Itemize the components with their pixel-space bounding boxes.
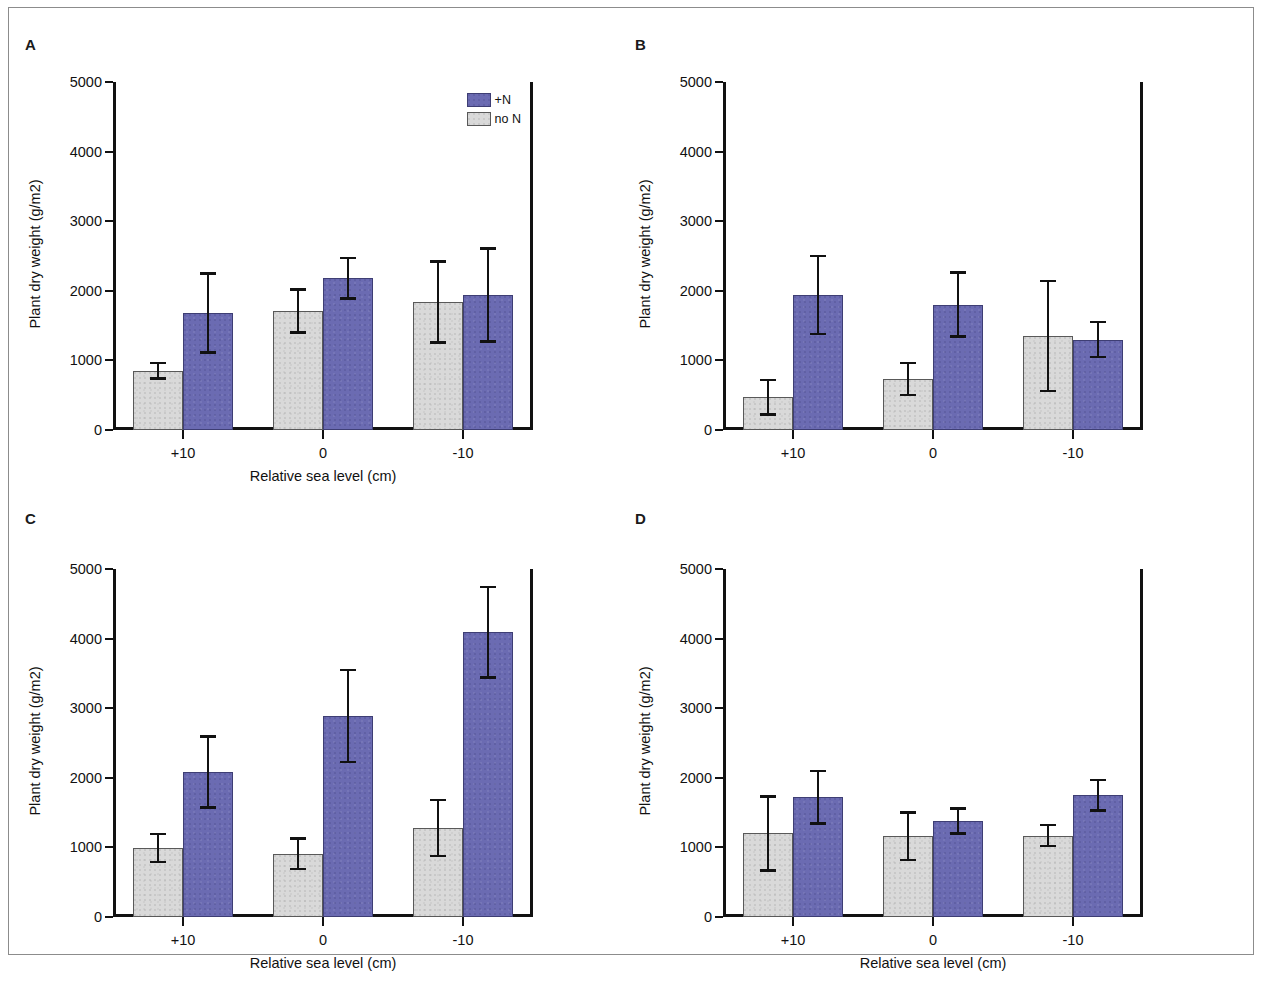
panel-c-errorbar-cap-lower [200, 806, 216, 809]
panel-d-bar-plus-n-2 [1073, 795, 1123, 917]
panel-b-ytick [715, 151, 723, 153]
panel-b-axes: 010002000300040005000+100-10 [723, 82, 1143, 430]
panel-b-errorbar-cap-lower [950, 335, 966, 338]
panel-b-errorbar-cap-lower [760, 413, 776, 416]
panel-b-errorbar-cap-lower [1040, 390, 1056, 393]
panel-c-ytick [105, 846, 113, 848]
panel-a-errorbar-cap-upper [290, 288, 306, 291]
panel-b-xtick-label: -10 [1063, 445, 1084, 461]
panel-a-errorbar-cap-lower [290, 331, 306, 334]
panel-d-ytick-label: 3000 [680, 700, 712, 716]
panel-d-errorbar-cap-lower [760, 869, 776, 872]
panel-a-errorbar-plus-n-1 [347, 258, 350, 298]
panel-c-errorbar-cap-lower [430, 855, 446, 858]
panel-c-ytick-label: 4000 [70, 631, 102, 647]
panel-c-errorbar-cap-lower [290, 868, 306, 871]
panel-d-errorbar-plus-n-1 [957, 808, 960, 833]
panel-c-ytick [105, 568, 113, 570]
panel-a-errorbar-no-n-1 [297, 289, 300, 332]
panel-a-ytick [105, 429, 113, 431]
panel-d-errorbar-cap-lower [1040, 845, 1056, 848]
panel-a-errorbar-cap-lower [150, 377, 166, 380]
panel-b-ytick-label: 2000 [680, 283, 712, 299]
panel-b-ytick [715, 359, 723, 361]
panel-c: C 010002000300040005000+100-10Relative s… [15, 492, 625, 947]
panel-a-errorbar-cap-lower [480, 340, 496, 343]
panel-c-errorbar-cap-lower [480, 676, 496, 679]
panel-d-ytick [715, 777, 723, 779]
panel-b-letter: B [635, 36, 646, 53]
panel-c-ytick [105, 777, 113, 779]
legend-item-plus_n[interactable]: +N [467, 92, 521, 107]
panel-d-plot: 010002000300040005000+100-10Relative sea… [723, 569, 1143, 917]
panel-b-errorbar-cap-upper [810, 255, 826, 258]
panel-b-ytick [715, 220, 723, 222]
panel-a-errorbar-cap-lower [200, 351, 216, 354]
panel-c-ytick-label: 3000 [70, 700, 102, 716]
panel-b-errorbar-cap-upper [760, 379, 776, 382]
legend-label-no_n: no N [495, 112, 521, 126]
panel-b-errorbar-cap-upper [1090, 321, 1106, 324]
panel-a-errorbar-cap-lower [430, 341, 446, 344]
panel-a: A 010002000300040005000+100-10Relative s… [15, 22, 625, 482]
panel-b-y-axis-label: Plant dry weight (g/m2) [637, 80, 653, 428]
panel-a-xtick [322, 430, 324, 439]
panel-a-errorbar-cap-lower [340, 297, 356, 300]
panel-c-errorbar-cap-upper [150, 833, 166, 836]
panel-c-x-axis-label: Relative sea level (cm) [250, 955, 397, 971]
panel-d-xtick-label: 0 [929, 932, 937, 948]
panel-a-plot: 010002000300040005000+100-10Relative sea… [113, 82, 533, 430]
panel-c-errorbar-plus-n-2 [487, 587, 490, 677]
panel-b-errorbar-cap-upper [900, 362, 916, 365]
panel-b-errorbar-cap-lower [1090, 356, 1106, 359]
panel-c-xtick-label: -10 [453, 932, 474, 948]
panel-a-ytick-label: 1000 [70, 352, 102, 368]
panel-a-errorbar-no-n-0 [157, 363, 160, 378]
panel-b-axis-spine-left [723, 82, 726, 430]
panel-a-ytick [105, 290, 113, 292]
panel-a-ytick-label: 5000 [70, 74, 102, 90]
panel-d-errorbar-no-n-2 [1047, 825, 1050, 846]
panel-b-errorbar-cap-lower [810, 333, 826, 336]
panel-c-errorbar-cap-upper [480, 586, 496, 589]
panel-d-xtick [1072, 917, 1074, 926]
panel-b-plot: 010002000300040005000+100-10Plant dry we… [723, 82, 1143, 430]
panel-b: B 010002000300040005000+100-10Plant dry … [625, 22, 1235, 482]
panel-d-errorbar-cap-upper [1090, 779, 1106, 782]
panel-d-axes: 010002000300040005000+100-10 [723, 569, 1143, 917]
panel-a-ytick [105, 81, 113, 83]
panel-d-xtick [792, 917, 794, 926]
panel-d-ytick [715, 846, 723, 848]
legend-swatch-plus_n [467, 93, 491, 107]
panel-c-xtick [182, 917, 184, 926]
legend-item-no_n[interactable]: no N [467, 111, 521, 126]
panel-b-errorbar-plus-n-1 [957, 273, 960, 337]
panel-d-errorbar-cap-lower [950, 832, 966, 835]
legend-swatch-no_n [467, 112, 491, 126]
panel-d-bar-plus-n-1 [933, 821, 983, 917]
panel-b-errorbar-no-n-0 [767, 380, 770, 415]
panel-a-xtick [182, 430, 184, 439]
panel-b-errorbar-plus-n-0 [817, 256, 820, 334]
panel-b-xtick [1072, 430, 1074, 439]
panel-b-errorbar-no-n-1 [907, 363, 910, 395]
legend-label-plus_n: +N [495, 93, 511, 107]
panel-d-errorbar-no-n-1 [907, 813, 910, 860]
panel-a-errorbar-plus-n-0 [207, 273, 210, 352]
panel-d-errorbar-no-n-0 [767, 797, 770, 871]
panel-b-ytick-label: 4000 [680, 144, 712, 160]
panel-b-ytick [715, 429, 723, 431]
panel-c-xtick [462, 917, 464, 926]
panel-a-ytick-label: 0 [94, 422, 102, 438]
panel-a-errorbar-no-n-2 [437, 262, 440, 343]
panel-d-axis-spine-right [1140, 569, 1143, 917]
panel-a-y-axis-label: Plant dry weight (g/m2) [27, 80, 43, 428]
panel-d-errorbar-plus-n-0 [817, 771, 820, 824]
panel-d-letter: D [635, 510, 646, 527]
panel-a-ytick-label: 2000 [70, 283, 102, 299]
panel-b-errorbar-cap-upper [950, 271, 966, 274]
panel-b-ytick [715, 81, 723, 83]
panel-b-ytick-label: 3000 [680, 213, 712, 229]
panel-d-ytick-label: 5000 [680, 561, 712, 577]
panel-d-errorbar-cap-upper [950, 807, 966, 810]
